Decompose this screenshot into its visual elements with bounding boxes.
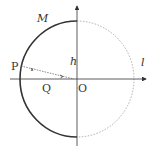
label-M: M [37,13,48,24]
arrow-mark-2 [60,75,63,78]
semicircle-diagram: M P h l Q O [0,0,151,152]
label-O: O [78,83,87,94]
label-P: P [11,61,18,72]
label-h: h [70,56,77,67]
label-l: l [141,57,145,68]
diagram-canvas [0,0,151,152]
label-Q: Q [42,83,51,94]
dashed-segment-PO [21,66,74,79]
